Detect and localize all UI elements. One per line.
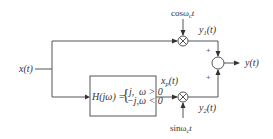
output-wire [224,61,240,66]
adder [212,57,224,69]
top-multiplier [178,36,188,46]
cos-carrier: cosωct [171,8,195,36]
y1-wire [188,41,221,57]
y2-label: y2(t) [198,102,217,114]
top-branch-wire [52,39,178,44]
output-label: y(t) [244,57,260,69]
arrow-head-icon [181,30,186,36]
arrow-head-icon [234,61,240,66]
sin-carrier: sinωct [170,102,192,134]
arrow-head-icon [216,51,221,57]
arrow-head-icon [85,95,90,100]
arrow-head-icon [172,95,178,100]
bottom-branch-wire [52,95,90,100]
arrow-head-icon [172,39,178,44]
xp-label: xp(t) [160,75,179,87]
adder-bottom-sign: + [206,73,211,82]
block-diagram: x(t) cosωct y1(t) + + y(t) [0,0,273,139]
input-label: x(t) [18,63,34,75]
filter-case2: −j, [127,95,139,106]
cos-carrier-label: cosωct [171,8,195,19]
y1-label: y1(t) [198,24,217,36]
arrow-head-icon [216,69,221,75]
hilbert-filter-block: H(jω) = { j, ω > 0 −j, ω < 0 [90,76,163,116]
filter-lhs: H(jω) = [91,91,125,103]
y2-wire [188,69,221,97]
sin-carrier-label: sinωct [170,123,192,134]
adder-top-sign: + [206,46,211,55]
arrow-head-icon [181,102,186,108]
bottom-multiplier [178,92,188,102]
input-wire [35,41,52,97]
